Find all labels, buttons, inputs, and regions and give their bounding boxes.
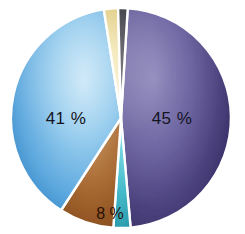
slice-blue-label: 41 % xyxy=(46,109,87,128)
slice-brown-label: 8 % xyxy=(96,205,124,222)
pie-slice-group xyxy=(11,8,231,228)
pie-chart-canvas: 45 %8 %41 % xyxy=(0,0,245,234)
pie-chart-figure: 45 %8 %41 % xyxy=(0,0,245,234)
slice-purple-label: 45 % xyxy=(152,109,193,128)
